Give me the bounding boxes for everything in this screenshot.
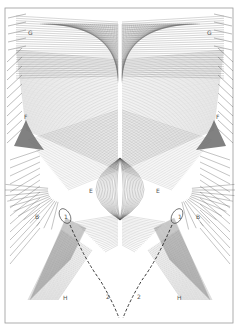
label-1-left: 1 — [64, 214, 68, 220]
label-B-left: B — [35, 214, 39, 220]
label-E-left: E — [89, 188, 93, 194]
envelope-lines — [5, 14, 235, 300]
label-G-right: G — [207, 30, 212, 36]
label-G-left: G — [28, 30, 33, 36]
label-2-right: 2 — [137, 294, 141, 300]
label-H-right: H — [177, 295, 182, 301]
label-H-left: H — [63, 295, 68, 301]
label-E-right: E — [156, 188, 160, 194]
label-F-right: F — [216, 114, 219, 120]
dashed-curves — [70, 225, 172, 318]
label-F-left: F — [24, 114, 27, 120]
label-2-left: 2 — [106, 294, 110, 300]
label-1-right: 1 — [178, 214, 182, 220]
string-art-diagram — [0, 0, 240, 333]
label-B-right: B — [196, 214, 200, 220]
